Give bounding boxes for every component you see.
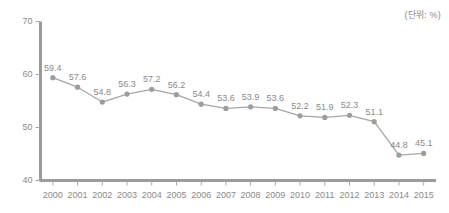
data-point-label: 54.8 <box>94 87 112 97</box>
line-chart: (단위: %) 40506070 20002001200220032004200… <box>0 0 449 213</box>
y-tick-label: 50 <box>22 122 32 132</box>
y-tick-label: 70 <box>22 16 32 26</box>
x-tick-label: 2013 <box>364 190 384 200</box>
x-tick-label: 2003 <box>117 190 137 200</box>
data-point-label: 51.9 <box>316 102 334 112</box>
x-tick-label: 2014 <box>389 190 409 200</box>
data-point-label: 56.2 <box>168 80 186 90</box>
data-point-marker <box>297 113 302 118</box>
data-point-label: 53.9 <box>242 92 260 102</box>
x-axis-group: 2000200120022003200420052006200720082009… <box>40 181 437 200</box>
x-tick-label: 2010 <box>290 190 310 200</box>
data-point-marker <box>248 104 253 109</box>
x-tick-label: 2005 <box>166 190 186 200</box>
x-tick-label: 2015 <box>414 190 434 200</box>
y-axis-group: 40506070 <box>22 16 40 185</box>
data-point-marker <box>223 106 228 111</box>
data-point-label: 57.2 <box>143 74 161 84</box>
x-tick-label: 2008 <box>241 190 261 200</box>
data-point-label: 54.4 <box>192 89 210 99</box>
x-tick-label: 2000 <box>43 190 63 200</box>
data-point-label: 56.3 <box>118 79 136 89</box>
x-tick-label: 2004 <box>142 190 162 200</box>
data-point-marker <box>174 92 179 97</box>
data-point-label: 52.2 <box>291 101 309 111</box>
data-point-label: 44.8 <box>390 140 408 150</box>
data-point-label: 53.6 <box>217 93 235 103</box>
data-point-marker <box>199 102 204 107</box>
data-point-marker <box>50 75 55 80</box>
data-point-marker <box>322 115 327 120</box>
x-tick-label: 2001 <box>68 190 88 200</box>
data-point-label: 57.6 <box>69 72 87 82</box>
x-tick-label: 2009 <box>265 190 285 200</box>
data-point-marker <box>347 113 352 118</box>
data-point-marker <box>149 87 154 92</box>
x-tick-label: 2006 <box>191 190 211 200</box>
series-group: 59.457.654.856.357.256.254.453.653.953.6… <box>44 63 432 158</box>
data-point-label: 52.3 <box>341 100 359 110</box>
x-tick-label: 2002 <box>92 190 112 200</box>
data-point-marker <box>372 119 377 124</box>
data-point-marker <box>75 85 80 90</box>
data-point-label: 53.6 <box>267 93 285 103</box>
x-tick-label: 2011 <box>315 190 334 200</box>
data-point-marker <box>396 152 401 157</box>
data-point-marker <box>273 106 278 111</box>
x-tick-label: 2007 <box>216 190 236 200</box>
data-point-marker <box>100 99 105 104</box>
x-tick-label: 2012 <box>339 190 359 200</box>
data-point-label: 51.1 <box>365 107 383 117</box>
data-point-marker <box>124 92 129 97</box>
chart-plot-area: 40506070 2000200120022003200420052006200… <box>0 0 449 213</box>
data-point-label: 45.1 <box>415 138 433 148</box>
y-tick-label: 60 <box>22 69 32 79</box>
data-point-label: 59.4 <box>44 63 62 73</box>
y-tick-label: 40 <box>22 175 32 185</box>
data-point-marker <box>421 151 426 156</box>
